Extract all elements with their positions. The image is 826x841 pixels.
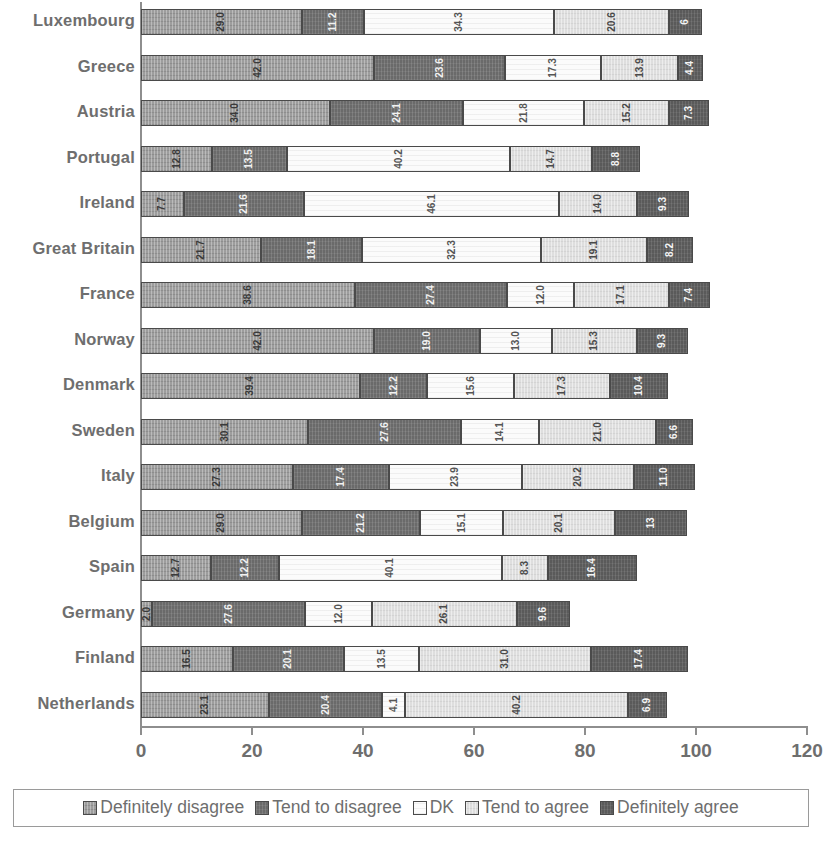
bar-value-label: 15.6 — [466, 376, 476, 395]
bar-value-label: 27.4 — [426, 285, 436, 304]
bar-segment: 9.3 — [637, 191, 689, 217]
bar-value-label: 20.4 — [321, 695, 331, 714]
legend-label: Tend to agree — [482, 799, 589, 817]
bar-segment: 8.8 — [592, 146, 641, 172]
bar-value-label: 16.4 — [587, 558, 597, 577]
category-label: Belgium — [0, 512, 135, 531]
x-axis-tick-label: 120 — [791, 740, 823, 762]
category-label: France — [0, 284, 135, 303]
bar-segment: 4.4 — [678, 55, 702, 81]
bar-segment: 14.7 — [510, 146, 592, 172]
bar-segment: 9.3 — [637, 328, 689, 354]
legend-swatch-icon — [600, 801, 614, 815]
bar-value-label: 14.0 — [593, 194, 603, 213]
bar-value-label: 9.3 — [658, 197, 668, 211]
x-axis-tick-label: 100 — [680, 740, 712, 762]
bar-value-label: 13 — [646, 517, 656, 528]
bar-segment: 23.9 — [389, 464, 522, 490]
x-axis-tick — [695, 726, 697, 735]
bar-segment: 21.0 — [539, 419, 656, 445]
category-axis-labels: LuxembourgGreeceAustriaPortugalIrelandGr… — [0, 0, 135, 728]
bar-value-label: 46.1 — [427, 194, 437, 213]
bar-segment: 39.4 — [141, 373, 360, 399]
bar-value-label: 12.2 — [389, 376, 399, 395]
bar-value-label: 29.0 — [216, 12, 226, 31]
bar-segment: 16.5 — [141, 646, 233, 672]
legend-swatch-icon — [83, 801, 97, 815]
category-label: Finland — [0, 648, 135, 667]
bar-value-label: 7.4 — [684, 288, 694, 302]
bar-segment: 11.2 — [302, 9, 364, 35]
bar-value-label: 31.0 — [500, 649, 510, 668]
bar-value-label: 6 — [680, 19, 690, 25]
x-axis-tick-label: 20 — [241, 740, 262, 762]
bar-value-label: 13.5 — [377, 649, 387, 668]
bar-value-label: 13.5 — [244, 149, 254, 168]
bar-segment: 20.1 — [233, 646, 345, 672]
bar-segment: 6.9 — [628, 692, 666, 718]
bar-value-label: 23.1 — [200, 695, 210, 714]
bar-segment: 38.6 — [141, 282, 355, 308]
legend-label: Definitely agree — [617, 799, 739, 817]
bar-value-label: 29.0 — [216, 513, 226, 532]
bar-segment: 12.2 — [360, 373, 428, 399]
bar-value-label: 40.2 — [394, 149, 404, 168]
bar-value-label: 42.0 — [253, 58, 263, 77]
bar-value-label: 9.3 — [657, 334, 667, 348]
bar-value-label: 17.4 — [336, 467, 346, 486]
bar-value-label: 20.1 — [554, 513, 564, 532]
bar-value-label: 27.6 — [380, 422, 390, 441]
bar-value-label: 34.0 — [230, 103, 240, 122]
bar-segment: 14.0 — [559, 191, 637, 217]
bar-segment: 13.5 — [212, 146, 287, 172]
bar-value-label: 21.8 — [519, 103, 529, 122]
bar-segment: 17.3 — [514, 373, 610, 399]
bar-value-label: 14.1 — [495, 422, 505, 441]
bar-segment: 15.6 — [427, 373, 514, 399]
bar-value-label: 19.1 — [589, 240, 599, 259]
bar-segment: 20.4 — [269, 692, 382, 718]
bar-segment: 21.8 — [463, 100, 584, 126]
legend-item: Definitely agree — [600, 799, 739, 817]
bar-segment: 31.0 — [419, 646, 591, 672]
bar-segment: 20.2 — [522, 464, 634, 490]
bar-segment: 46.1 — [304, 191, 560, 217]
bar-segment: 11.0 — [634, 464, 695, 490]
x-axis-tick-label: 60 — [463, 740, 484, 762]
bar-segment: 8.2 — [647, 237, 693, 263]
bar-value-label: 40.2 — [512, 695, 522, 714]
x-axis-tick — [362, 726, 364, 735]
bar-value-label: 11.2 — [328, 13, 338, 32]
bar-segment: 23.6 — [374, 55, 505, 81]
bar-value-label: 26.1 — [439, 604, 449, 623]
bar-segment: 15.3 — [552, 328, 637, 354]
bar-segment: 20.6 — [554, 9, 668, 35]
bar-value-label: 18.1 — [307, 240, 317, 259]
legend-swatch-icon — [255, 801, 269, 815]
bar-segment: 15.2 — [584, 100, 668, 126]
bar-segment: 13.9 — [601, 55, 678, 81]
bar-value-label: 17.1 — [616, 285, 626, 304]
bar-value-label: 15.1 — [457, 513, 467, 532]
bar-segment: 15.1 — [420, 510, 504, 536]
x-axis-tick-label: 40 — [352, 740, 373, 762]
bar-segment: 12.0 — [507, 282, 574, 308]
bar-value-label: 23.9 — [450, 467, 460, 486]
bar-segment: 27.6 — [308, 419, 461, 445]
legend-item: Tend to agree — [465, 799, 589, 817]
category-label: Greece — [0, 57, 135, 76]
bar-value-label: 19.0 — [422, 331, 432, 350]
bar-value-label: 13.0 — [511, 331, 521, 350]
category-label: Great Britain — [0, 239, 135, 258]
bar-value-label: 24.1 — [392, 103, 402, 122]
bar-value-label: 21.6 — [239, 194, 249, 213]
bar-value-label: 6.6 — [669, 425, 679, 439]
bars-container: 29.011.234.320.6642.023.617.313.94.434.0… — [141, 0, 826, 728]
bar-value-label: 9.6 — [538, 607, 548, 621]
category-label: Ireland — [0, 193, 135, 212]
bar-value-label: 16.5 — [182, 649, 192, 668]
bar-segment: 21.2 — [302, 510, 420, 536]
bar-segment: 21.6 — [184, 191, 304, 217]
legend-item: DK — [413, 799, 454, 817]
bar-value-label: 2.0 — [142, 607, 152, 621]
